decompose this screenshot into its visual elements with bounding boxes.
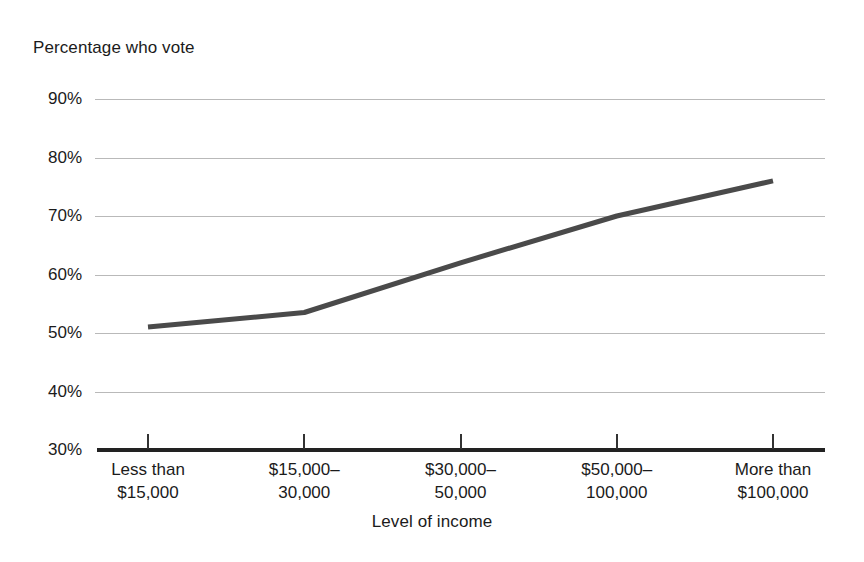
gridline <box>95 392 825 393</box>
x-axis-tick-label-line2: $100,000 <box>688 481 858 504</box>
x-axis-tick-label-line2: 100,000 <box>532 481 702 504</box>
x-axis-tick-mark <box>147 434 149 449</box>
x-axis-tick-mark <box>616 434 618 449</box>
plot-area <box>95 95 825 454</box>
x-axis-tick-label-line1: $15,000– <box>219 458 389 481</box>
x-axis-tick-label-line2: 30,000 <box>219 481 389 504</box>
y-axis-tick-label: 30% <box>22 440 82 460</box>
gridline <box>95 216 825 217</box>
gridline <box>95 158 825 159</box>
x-axis-tick-mark <box>772 434 774 449</box>
gridline <box>95 333 825 334</box>
x-axis-tick-mark <box>303 434 305 449</box>
x-axis-tick-label: $50,000–100,000 <box>532 458 702 504</box>
x-axis-tick-label: Less than$15,000 <box>63 458 233 504</box>
y-axis-tick-label: 60% <box>22 265 82 285</box>
x-axis-tick-label: More than$100,000 <box>688 458 858 504</box>
y-axis-tick-label: 50% <box>22 323 82 343</box>
x-axis-title: Level of income <box>0 512 864 532</box>
x-axis-tick-label-line1: Less than <box>63 458 233 481</box>
gridline <box>95 99 825 100</box>
x-axis-tick-label-line1: More than <box>688 458 858 481</box>
x-axis-tick-label: $30,000–50,000 <box>376 458 546 504</box>
chart-figure: Percentage who vote 90%80%70%60%50%40%30… <box>0 0 864 562</box>
y-axis-tick-label: 80% <box>22 148 82 168</box>
x-axis-tick-label: $15,000–30,000 <box>219 458 389 504</box>
x-axis-tick-label-line2: $15,000 <box>63 481 233 504</box>
x-axis-tick-label-line2: 50,000 <box>376 481 546 504</box>
x-axis-tick-label-line1: $50,000– <box>532 458 702 481</box>
y-axis-tick-label: 40% <box>22 382 82 402</box>
y-axis-tick-label: 90% <box>22 89 82 109</box>
x-axis-tick-mark <box>460 434 462 449</box>
gridline <box>95 275 825 276</box>
x-axis-tick-label-line1: $30,000– <box>376 458 546 481</box>
y-axis-tick-label: 70% <box>22 206 82 226</box>
y-axis-title: Percentage who vote <box>33 38 195 58</box>
